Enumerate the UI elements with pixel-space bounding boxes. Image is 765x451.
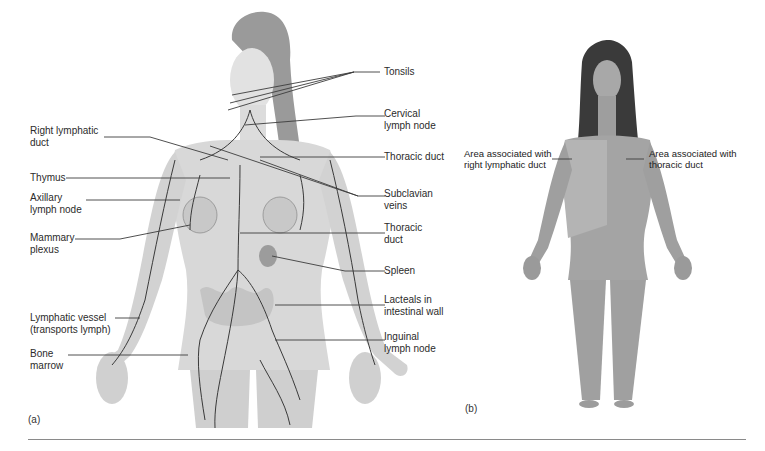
label-lymphatic-vessel: Lymphatic vessel (transports lymph) [30, 312, 111, 336]
label-subclavian-veins: Subclavian veins [384, 188, 433, 212]
label-inguinal-lymph-node: Inguinal lymph node [384, 331, 436, 355]
label-cervical-lymph-node: Cervical lymph node [384, 108, 436, 132]
label-mammary-plexus: Mammary plexus [30, 232, 74, 256]
label-tonsils: Tonsils [384, 66, 415, 78]
panel-a-tag: (a) [28, 414, 40, 425]
label-right-lymphatic-duct: Right lymphatic duct [30, 125, 98, 149]
label-lacteals: Lacteals in intestinal wall [384, 294, 443, 318]
label-thymus: Thymus [30, 172, 66, 184]
panel-b-tag: (b) [465, 403, 477, 414]
panel-a-body-figure [96, 12, 408, 428]
figure-bottom-divider [28, 439, 746, 440]
label-area-thoracic-duct: Area associated with thoracic duct [649, 148, 737, 170]
label-thoracic-duct-upper: Thoracic duct [384, 151, 444, 163]
label-bone-marrow: Bone marrow [30, 348, 63, 372]
label-axillary-lymph-node: Axillary lymph node [30, 192, 82, 216]
label-area-right-lymphatic-duct: Area associated with right lymphatic duc… [464, 148, 552, 170]
label-spleen: Spleen [384, 265, 415, 277]
lymphatic-system-illustration [0, 0, 765, 451]
panel-b-body-figure [523, 40, 692, 408]
label-thoracic-duct-lower: Thoracic duct [384, 222, 422, 246]
